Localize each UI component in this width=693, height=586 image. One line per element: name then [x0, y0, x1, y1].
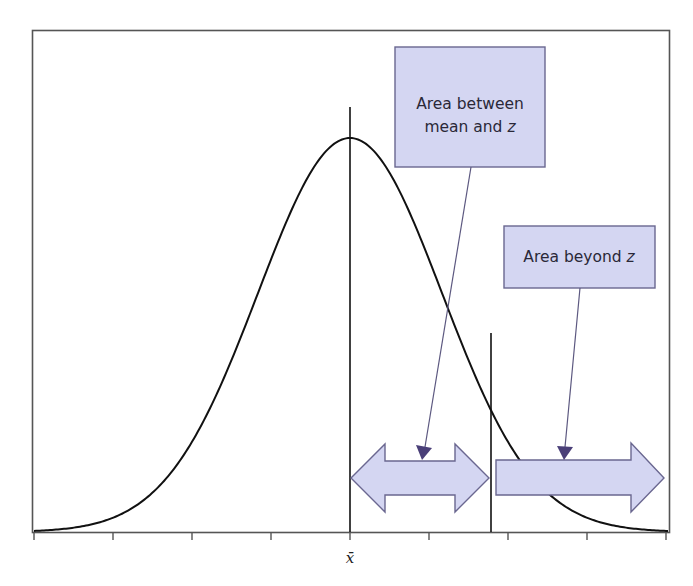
callout-between: Area between mean andz — [395, 47, 545, 167]
svg-text:Area beyondz: Area beyondz — [523, 248, 635, 266]
callout-beyond: Area beyondz — [504, 226, 655, 288]
pointer-between-head-icon — [416, 445, 432, 460]
svg-text:Area between: Area between — [416, 95, 524, 113]
callout-between-line1: Area between — [416, 95, 524, 113]
normal-distribution-figure: Area between mean andz Area beyondz x̄ — [0, 0, 693, 586]
pointer-beyond-head-icon — [557, 446, 573, 460]
pointer-beyond — [565, 288, 580, 447]
callout-beyond-z: z — [626, 248, 636, 266]
mean-axis-label: x̄ — [346, 549, 355, 567]
right-arrow-beyond-icon — [496, 443, 664, 512]
callout-beyond-line1: Area beyond — [523, 248, 621, 266]
callout-between-z: z — [506, 118, 516, 136]
callout-between-line2: mean and — [424, 118, 502, 136]
pointer-between — [425, 167, 471, 447]
